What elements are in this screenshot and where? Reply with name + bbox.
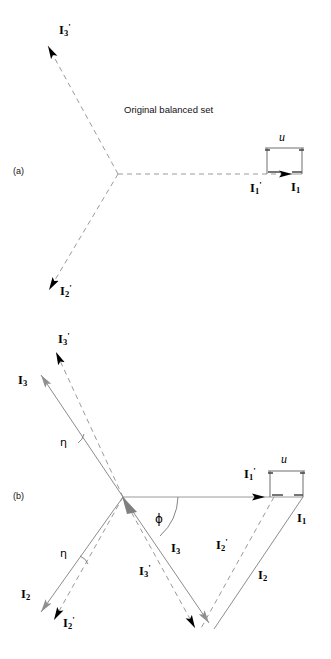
figure-canvas: (a) Original balanced set I3' I2' I1' I1… [0, 0, 331, 659]
phasor-b-i3-upper [41, 375, 123, 497]
label-b-i1-sub: 1 [302, 516, 306, 526]
panel-a-phasors [48, 46, 304, 290]
u-bracket-b [268, 471, 305, 497]
label-b-i2-prime-left-mark: ' [72, 615, 75, 625]
label-a-i1-prime-mark: ' [259, 180, 262, 190]
panel-b-tag: (b) [13, 491, 24, 501]
label-b-i3-prime-mid-mark: ' [148, 563, 151, 573]
label-a-i1-sub: 1 [296, 185, 300, 195]
label-a-i2-prime-mark: ' [69, 283, 72, 293]
phasor-b-i3-sumleg [123, 497, 209, 623]
label-b-i2-left: I2 [21, 587, 30, 602]
phasor-b-i2prime-sumleg [200, 497, 274, 630]
label-b-i3-mid: I3 [171, 541, 180, 556]
phasor-a-i3prime [48, 46, 118, 174]
label-b-i1: I1 [297, 511, 306, 526]
label-a-i1-prime: I1' [250, 180, 262, 196]
label-b-i2-right: I2 [258, 568, 267, 583]
phasor-a-i2prime [49, 174, 118, 290]
label-b-i1-prime-mark: ' [253, 466, 256, 476]
panel-b-phasors [41, 352, 305, 630]
label-b-i2-right-sub: 2 [263, 573, 267, 583]
label-b-i2-prime-right: I2' [216, 537, 228, 553]
label-b-eta-lower: η [60, 547, 67, 560]
label-b-i2-prime-left: I2' [63, 615, 75, 631]
label-b-phi: ϕ [155, 512, 163, 526]
u-bracket-a [265, 148, 304, 174]
label-b-i3-prime-top-mark: ' [67, 331, 70, 341]
panel-a-caption: Original balanced set [124, 104, 213, 115]
label-b-u: u [281, 452, 287, 467]
phasor-b-i2-lower [41, 497, 123, 612]
label-b-i3-prime-mid: I3' [139, 563, 151, 579]
label-a-u: u [279, 130, 285, 145]
label-b-i1-prime: I1' [244, 466, 256, 482]
label-b-i3-top: I3 [18, 373, 27, 388]
label-b-i3-top-sub: 3 [23, 378, 27, 388]
label-b-i3-prime-top: I3' [58, 331, 70, 347]
eta-lower-arc [80, 556, 88, 564]
phasor-b-i3prime-upper [56, 352, 123, 497]
label-b-i3-mid-sub: 3 [176, 546, 180, 556]
label-a-i2-prime: I2' [60, 283, 72, 299]
label-a-i3-prime-mark: ' [68, 22, 71, 32]
panel-a-tag: (a) [13, 166, 24, 176]
label-b-i2-left-sub: 2 [26, 592, 30, 602]
origin-wedge-arrowhead [122, 496, 137, 514]
label-b-i2-prime-right-mark: ' [225, 537, 228, 547]
label-b-eta-upper: η [60, 436, 67, 449]
label-a-i3-prime: I3' [59, 22, 71, 38]
phasor-b-i2-sumleg [214, 497, 303, 629]
phasor-diagram-svg [0, 0, 331, 659]
label-a-i1: I1 [291, 180, 300, 195]
